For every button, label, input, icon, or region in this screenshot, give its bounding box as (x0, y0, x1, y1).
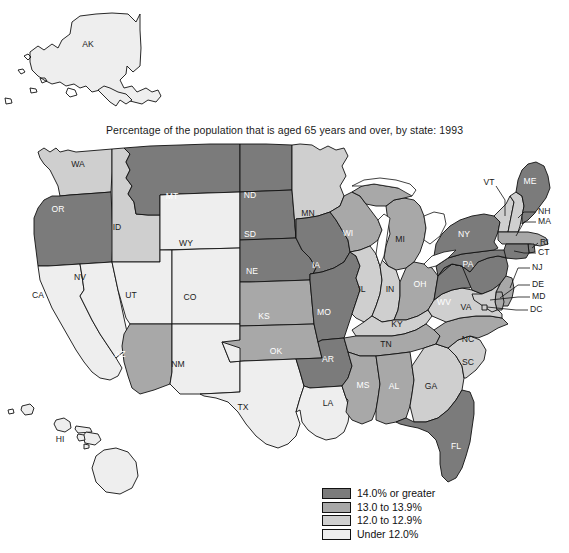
state-label-AK: AK (82, 39, 94, 49)
state-label-IN: IN (386, 284, 395, 294)
state-label-MN: MN (301, 208, 314, 218)
state-label-WV: WV (437, 297, 451, 307)
legend-item-under-12[interactable]: Under 12.0% (322, 528, 435, 541)
legend-item-12-to-129[interactable]: 12.0 to 12.9% (322, 514, 435, 527)
state-label-LA: LA (323, 398, 334, 408)
state-ND[interactable] (240, 144, 292, 192)
state-label-CT: CT (538, 247, 550, 257)
ak-aleutian-2 (18, 69, 25, 74)
state-label-MI: MI (395, 234, 405, 244)
state-label-FL: FL (451, 441, 461, 451)
state-HI-kahoolawe[interactable] (84, 444, 89, 449)
state-label-WY: WY (179, 238, 193, 248)
state-label-CA: CA (32, 290, 44, 300)
choropleth-map-figure: Percentage of the population that is age… (0, 0, 569, 553)
state-label-NY: NY (458, 229, 470, 239)
state-KS[interactable] (240, 280, 314, 326)
state-MI[interactable] (384, 198, 426, 270)
state-label-NH: NH (538, 206, 550, 216)
state-label-TN: TN (380, 339, 391, 349)
state-label-IA: IA (312, 260, 320, 270)
legend-label-cat3: 13.0 to 13.9% (357, 502, 422, 513)
state-WA[interactable] (38, 148, 112, 196)
state-DC[interactable] (482, 305, 487, 310)
legend-swatch-cat2 (322, 515, 351, 526)
state-label-NC: NC (462, 334, 474, 344)
legend-label-cat4: 14.0% or greater (357, 488, 435, 499)
legend-swatch-cat3 (322, 502, 351, 513)
state-HI-molokai[interactable] (75, 426, 92, 433)
legend-item-13-to-139[interactable]: 13.0 to 13.9% (322, 501, 435, 514)
legend-label-cat1: Under 12.0% (357, 529, 418, 540)
state-label-AL: AL (389, 381, 400, 391)
state-label-MS: MS (357, 380, 370, 390)
state-label-MD: MD (532, 291, 545, 301)
state-HI-maui[interactable] (83, 432, 101, 445)
state-label-DC: DC (530, 304, 542, 314)
state-label-OK: OK (270, 346, 283, 356)
state-label-KS: KS (258, 311, 270, 321)
state-label-SD: SD (244, 229, 256, 239)
state-AZ[interactable] (122, 324, 172, 394)
states-layer (5, 13, 550, 494)
state-label-RI: RI (540, 237, 549, 247)
state-label-PA: PA (463, 259, 474, 269)
state-label-UT: UT (125, 290, 137, 300)
state-HI-lanai[interactable] (77, 434, 85, 441)
state-label-ND: ND (244, 190, 256, 200)
hi-niihau (8, 409, 14, 414)
state-label-DE: DE (532, 279, 544, 289)
state-label-SC: SC (462, 357, 474, 367)
state-CO[interactable] (172, 248, 240, 324)
ak-island-small (5, 98, 12, 104)
state-HI-bigisland[interactable] (92, 448, 138, 494)
state-label-WA: WA (71, 159, 85, 169)
state-AK[interactable] (30, 13, 161, 104)
state-label-KY: KY (391, 319, 403, 329)
legend-swatch-cat1 (322, 529, 351, 540)
state-label-OH: OH (414, 279, 427, 289)
state-label-MO: MO (317, 307, 331, 317)
legend-swatch-cat4 (322, 488, 351, 499)
state-label-NM: NM (171, 359, 184, 369)
legend-item-14-or-greater[interactable]: 14.0% or greater (322, 487, 435, 500)
state-label-VT: VT (484, 177, 496, 187)
state-label-TX: TX (238, 402, 249, 412)
state-label-VA: VA (461, 302, 472, 312)
state-OR[interactable] (34, 192, 113, 266)
state-label-ID: ID (113, 222, 122, 232)
state-label-CO: CO (184, 292, 197, 302)
state-HI-kauai[interactable] (21, 404, 34, 415)
state-label-AZ: AZ (115, 349, 126, 359)
state-label-MA: MA (538, 216, 551, 226)
state-label-MT: MT (166, 191, 179, 201)
state-HI-oahu[interactable] (54, 418, 71, 432)
state-label-OR: OR (52, 204, 65, 214)
state-label-GA: GA (425, 381, 438, 391)
state-label-AR: AR (322, 354, 334, 364)
us-map-svg: AK HI WA OR ID MT WY ND SD MN WI MI NV C… (0, 0, 569, 553)
state-label-ME: ME (524, 176, 537, 186)
state-LA[interactable] (296, 386, 350, 440)
state-label-NE: NE (246, 266, 258, 276)
state-label-NV: NV (74, 272, 86, 282)
ak-island-kodiak (66, 88, 77, 97)
state-label-IL: IL (358, 284, 365, 294)
map-legend: 14.0% or greater 13.0 to 13.9% 12.0 to 1… (322, 487, 435, 541)
state-label-NJ: NJ (532, 262, 543, 272)
ak-aleutian-4 (30, 88, 37, 93)
state-label-HI: HI (56, 434, 65, 444)
state-label-WI: WI (343, 228, 354, 238)
legend-label-cat2: 12.0 to 12.9% (357, 515, 422, 526)
